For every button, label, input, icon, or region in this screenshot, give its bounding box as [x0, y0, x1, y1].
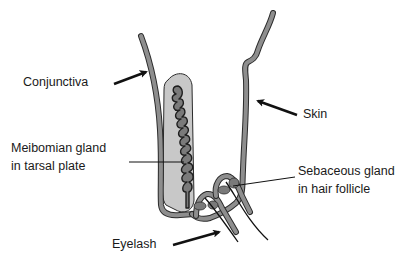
label-meibomian-line1: Meibomian gland: [11, 141, 106, 156]
eyelid-illustration: [0, 0, 411, 257]
label-eyelash: Eyelash: [112, 237, 156, 252]
label-meibomian-line2: in tarsal plate: [11, 159, 85, 174]
eyelid-diagram: Conjunctiva Skin Meibomian gland in tars…: [0, 0, 411, 257]
conjunctiva-arrow: [114, 72, 146, 84]
label-skin: Skin: [303, 107, 327, 122]
label-conjunctiva: Conjunctiva: [23, 75, 88, 90]
eyelash-arrow: [173, 232, 219, 245]
label-sebaceous-line2: in hair follicle: [298, 182, 370, 197]
label-sebaceous-line1: Sebaceous gland: [298, 164, 395, 179]
skin-arrow: [258, 101, 297, 115]
